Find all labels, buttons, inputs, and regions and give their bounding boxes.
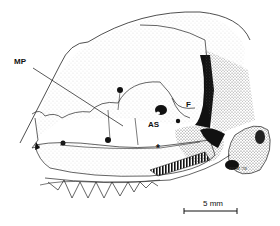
label-mp: MP xyxy=(14,58,26,66)
label-f: F xyxy=(186,101,191,109)
label-as: AS xyxy=(148,121,159,129)
skull-drawing xyxy=(0,0,280,226)
skull-illustration: MP F AS * 5 mm ECM '78 xyxy=(0,0,280,226)
artist-signature: ECM '78 xyxy=(229,166,247,171)
scale-bar-label: 5 mm xyxy=(203,199,223,208)
label-asterisk: * xyxy=(156,144,160,154)
